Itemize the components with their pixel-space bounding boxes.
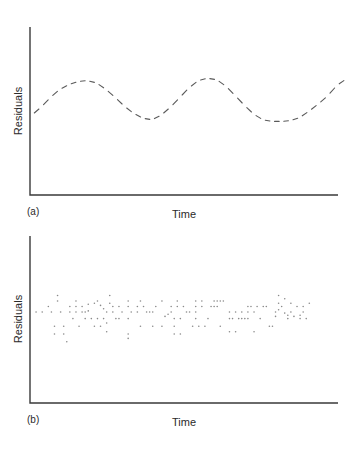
scatter-point [127, 300, 129, 302]
scatter-point [57, 295, 59, 297]
scatter-point [112, 306, 114, 308]
scatter-point [72, 318, 74, 320]
scatter-point [201, 306, 203, 308]
panel-b-ylabel: Residuals [12, 294, 24, 343]
scatter-point [84, 318, 86, 320]
scatter-point [229, 318, 231, 320]
line-dash [201, 79, 206, 80]
scatter-point [66, 341, 68, 343]
scatter-point [106, 311, 108, 313]
scatter-point [250, 306, 252, 308]
line-dash [330, 88, 335, 93]
scatter-point [183, 306, 185, 308]
line-dash [108, 91, 113, 95]
scatter-point [186, 311, 188, 313]
scatter-point [223, 300, 225, 302]
scatter-point [284, 298, 286, 300]
scatter-point [293, 316, 295, 318]
line-dash [182, 90, 187, 95]
scatter-point [278, 302, 280, 304]
scatter-point [253, 311, 255, 313]
scatter-point [173, 333, 175, 335]
scatter-point [290, 302, 292, 304]
scatter-point [167, 313, 169, 315]
scatter-point [69, 306, 71, 308]
scatter-point [118, 306, 120, 308]
scatter-point [302, 306, 304, 308]
scatter-point [229, 311, 231, 313]
scatter-point [287, 315, 289, 317]
scatter-point [155, 306, 157, 308]
scatter-point [259, 318, 261, 320]
scatter-point [299, 318, 301, 320]
scatter-point [97, 300, 99, 302]
scatter-point [241, 318, 243, 320]
scatter-point [75, 311, 77, 313]
scatter-point [78, 326, 80, 328]
scatter-point [204, 326, 206, 328]
scatter-point [305, 318, 307, 320]
scatter-point [60, 311, 62, 313]
line-dash [321, 98, 326, 102]
scatter-point [219, 300, 221, 302]
scatter-point [69, 311, 71, 313]
scatter-point [100, 326, 102, 328]
scatter-point [81, 311, 83, 313]
line-dash [71, 82, 76, 84]
scatter-point [266, 306, 268, 308]
scatter-point [112, 311, 114, 313]
scatter-point [81, 306, 83, 308]
scatter-point [238, 318, 240, 320]
scatter-point [201, 300, 203, 302]
scatter-point [309, 302, 311, 304]
scatter-point [100, 305, 102, 307]
scatter-point [216, 300, 218, 302]
scatter-point [189, 311, 191, 313]
scatter-point [152, 326, 154, 328]
panel-b-label: (b) [27, 414, 39, 425]
scatter-point [278, 309, 280, 311]
scatter-point [253, 331, 255, 333]
scatter-point [63, 326, 65, 328]
scatter-point [161, 300, 163, 302]
scatter-point [247, 318, 249, 320]
scatter-point [94, 326, 96, 328]
line-dash [265, 120, 270, 121]
scatter-point [146, 311, 148, 313]
scatter-point [164, 316, 166, 318]
line-dash [339, 81, 344, 84]
scatter-point [180, 333, 182, 335]
scatter-point [75, 306, 77, 308]
scatter-point [149, 311, 151, 313]
line-dash [210, 79, 215, 80]
panel-b-axes [30, 236, 338, 403]
panel-b-series [35, 295, 310, 343]
scatter-point [137, 311, 139, 313]
line-dash [53, 91, 58, 95]
scatter-point [216, 306, 218, 308]
scatter-point [241, 311, 243, 313]
scatter-point [284, 312, 286, 314]
scatter-point [121, 311, 123, 313]
scatter-point [229, 331, 231, 333]
scatter-point [299, 315, 301, 317]
scatter-point [302, 311, 304, 313]
scatter-point [170, 306, 172, 308]
scatter-point [109, 295, 111, 297]
scatter-point [140, 300, 142, 302]
scatter-point [213, 300, 215, 302]
scatter-point [41, 311, 43, 313]
scatter-point [296, 306, 298, 308]
scatter-point [247, 306, 249, 308]
scatter-point [219, 326, 221, 328]
line-dash [238, 98, 243, 103]
line-dash [145, 119, 150, 120]
scatter-point [281, 306, 283, 308]
scatter-point [97, 318, 99, 320]
scatter-point [57, 300, 59, 302]
scatter-point [275, 316, 277, 318]
panel-b: Residuals Time (b) [12, 236, 338, 428]
line-dash [90, 81, 95, 82]
line-dash [256, 116, 261, 119]
line-dash [302, 113, 307, 116]
